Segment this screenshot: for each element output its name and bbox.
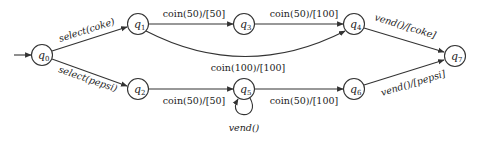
state-q2: q2 (128, 79, 149, 100)
label-q3-q4: coin(50)/[100] (270, 8, 338, 19)
state-q0: q0 (32, 45, 53, 66)
label-q4-q7: vend()/[coke] (373, 11, 437, 40)
state-q5: q5 (234, 79, 255, 100)
label-q0-q2: select(pepsi) (57, 63, 119, 93)
label-q2-q5: coin(50)/[50] (163, 95, 225, 106)
label-q5-q6: coin(50)/[100] (270, 95, 338, 106)
state-q6: q6 (344, 79, 365, 100)
state-diagram: select(coke) select(pepsi) coin(50)/[50]… (0, 0, 482, 145)
state-q1: q1 (128, 14, 149, 35)
state-q4: q4 (344, 14, 365, 35)
state-q3: q3 (234, 14, 255, 35)
edge-q5-self-loop (236, 98, 253, 115)
state-q7: q7 (445, 46, 466, 67)
label-q6-q7: vend()/[pepsi] (379, 68, 446, 98)
label-q5-self: vend() (229, 122, 260, 133)
label-q1-q4: coin(100)/[100] (211, 62, 286, 73)
label-q1-q3: coin(50)/[50] (163, 8, 225, 19)
